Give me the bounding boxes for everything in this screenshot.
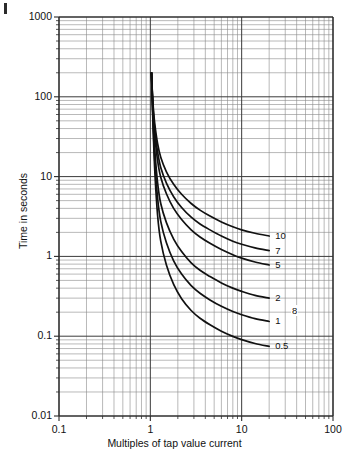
curve-label-7: 7 [275, 245, 280, 256]
curve-series-5 [152, 73, 270, 265]
curve-series-group [152, 73, 270, 347]
curve-label-0-5: 0.5 [275, 340, 288, 351]
plot-frame [59, 17, 333, 416]
curve-label-2: 2 [275, 292, 280, 303]
x-tick-label: 0.1 [39, 423, 79, 435]
grid-major-lines [59, 17, 333, 416]
curve-label-10: 10 [275, 230, 286, 241]
curve-series-1 [152, 73, 270, 322]
chart-plot-area [0, 0, 349, 464]
stray-figure-label: 8 [291, 305, 298, 316]
x-tick-label: 100 [313, 423, 349, 435]
x-tick-label: 10 [222, 423, 262, 435]
x-axis-title: Multiples of tap value current [0, 437, 349, 449]
y-tick-label: 1000 [6, 10, 52, 22]
curve-label-1: 1 [275, 315, 280, 326]
grid-minor-lines [59, 17, 333, 416]
time-current-characteristic-figure: Time in seconds Multiples of tap value c… [0, 0, 349, 464]
y-tick-label: 0.1 [6, 329, 52, 341]
curve-label-5: 5 [275, 259, 280, 270]
y-tick-label: 0.01 [6, 409, 52, 421]
y-tick-label: 1 [6, 249, 52, 261]
y-tick-label: 10 [6, 170, 52, 182]
curve-series-7 [152, 73, 270, 251]
y-tick-label: 100 [6, 90, 52, 102]
x-tick-label: 1 [130, 423, 170, 435]
curve-series-0-5 [152, 73, 270, 347]
